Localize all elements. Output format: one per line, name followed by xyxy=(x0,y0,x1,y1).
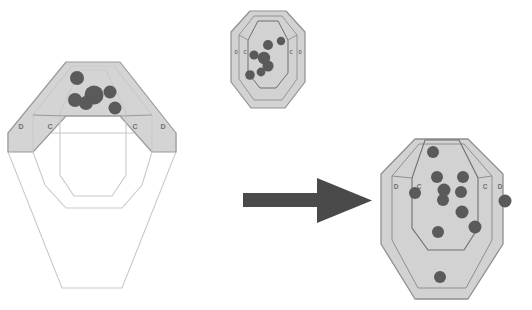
left-zone-label-d-right: D xyxy=(160,123,165,130)
bullet-hole xyxy=(263,40,273,50)
bullet-hole xyxy=(431,171,443,183)
bullet-hole xyxy=(469,221,482,234)
arrow-head-icon xyxy=(317,178,372,223)
left-zone-label-c-right: C xyxy=(132,123,137,130)
bullet-hole xyxy=(79,96,93,110)
arrow-shaft xyxy=(243,193,321,207)
right-zone-label-d-right: D xyxy=(498,183,503,190)
left-zone-label-c-left: C xyxy=(47,123,52,130)
bullet-hole xyxy=(432,226,444,238)
bullet-hole xyxy=(109,102,122,115)
bullet-hole xyxy=(104,86,117,99)
left-zone-label-d-left: D xyxy=(18,123,23,130)
scene-canvas: D C C D D C C D xyxy=(0,0,532,310)
right-zone-label-d-left: D xyxy=(394,183,399,190)
bullet-hole xyxy=(277,37,285,45)
target-left-closeup: D C C D xyxy=(8,62,176,288)
bullet-hole xyxy=(257,68,266,77)
target-middle-small: D C C D xyxy=(231,11,305,108)
bullet-hole xyxy=(499,195,512,208)
bullet-hole xyxy=(457,171,469,183)
right-zone-label-c-right: C xyxy=(483,183,488,190)
target-comparison-diagram: D C C D D C C D xyxy=(0,0,532,310)
bullet-hole xyxy=(409,187,421,199)
bullet-hole xyxy=(70,71,84,85)
bullet-hole xyxy=(455,186,467,198)
bullet-hole xyxy=(427,146,439,158)
bullet-hole xyxy=(245,70,255,80)
bullet-hole xyxy=(249,50,258,59)
target-right-result: D C C D xyxy=(381,139,512,299)
bullet-hole xyxy=(437,194,449,206)
bullet-hole xyxy=(434,271,446,283)
bullet-hole xyxy=(456,206,469,219)
transition-arrow xyxy=(243,178,372,223)
